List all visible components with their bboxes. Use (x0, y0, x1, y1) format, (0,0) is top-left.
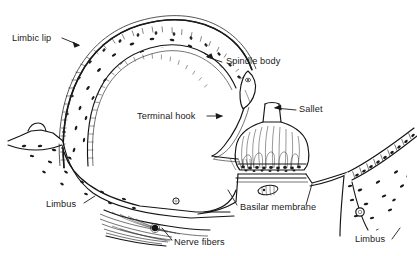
label-sallet: Sallet (299, 104, 323, 114)
limbus-ring-cell (173, 198, 179, 204)
label-terminal-hook: Terminal hook (137, 111, 196, 121)
label-nerve-fibers: Nerve fibers (174, 237, 225, 247)
anatomical-diagram: Limbic lip Spindle body Sallet Terminal … (0, 0, 417, 256)
limbus-right-ring-cell (356, 208, 364, 216)
label-limbic-lip: Limbic lip (12, 33, 51, 43)
label-spindle-body: Spindle body (226, 56, 281, 66)
label-basilar-membrane: Basilar membrane (240, 202, 316, 212)
label-limbus-left: Limbus (46, 199, 77, 209)
label-limbus-right: Limbus (355, 234, 386, 244)
